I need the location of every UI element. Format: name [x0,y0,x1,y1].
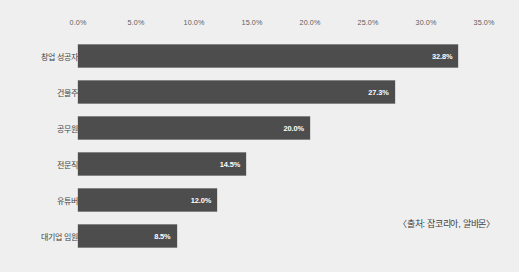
bar-value-label: 12.0% [191,196,211,205]
bar-track: 32.8% [78,45,484,68]
bar[interactable]: 20.0% [78,117,310,140]
category-label: 공무원 [0,123,78,134]
bar[interactable]: 12.0% [78,189,217,212]
x-axis: 0.0%5.0%10.0%15.0%20.0%25.0%30.0%35.0% [0,0,519,36]
bar-track: 12.0% [78,189,484,212]
x-axis-tick-label: 0.0% [70,18,87,27]
bar-row: 전문직14.5% [0,146,519,182]
x-axis-tick-label: 35.0% [474,18,495,27]
category-label: 대기업 임원 [0,231,78,242]
bar[interactable]: 14.5% [78,153,246,176]
x-axis-tick-label: 30.0% [416,18,437,27]
x-axis-tick-label: 5.0% [128,18,145,27]
x-axis-tick-label: 25.0% [358,18,379,27]
bar[interactable]: 8.5% [78,225,177,248]
category-label: 전문직 [0,159,78,170]
x-axis-tick-label: 10.0% [184,18,205,27]
x-axis-tick-label: 20.0% [300,18,321,27]
bar-value-label: 8.5% [154,232,170,241]
bar[interactable]: 32.8% [78,45,458,68]
bar-value-label: 14.5% [220,160,240,169]
bar-row: 유튜버12.0% [0,182,519,218]
bar[interactable]: 27.3% [78,81,395,104]
category-label: 창업 성공자 [0,51,78,62]
bar-value-label: 27.3% [368,88,388,97]
bar-row: 공무원20.0% [0,110,519,146]
bar-track: 27.3% [78,81,484,104]
category-label: 유튜버 [0,195,78,206]
bar-row: 창업 성공자32.8% [0,38,519,74]
bar-value-label: 20.0% [284,124,304,133]
category-label: 건물주 [0,87,78,98]
source-annotation: 〈출처: 잡코리아, 알바몬〉 [398,217,495,230]
bar-value-label: 32.8% [432,52,452,61]
bar-chart: 0.0%5.0%10.0%15.0%20.0%25.0%30.0%35.0% 창… [0,0,519,272]
bar-row: 건물주27.3% [0,74,519,110]
bar-track: 14.5% [78,153,484,176]
x-axis-tick-label: 15.0% [242,18,263,27]
bar-track: 20.0% [78,117,484,140]
